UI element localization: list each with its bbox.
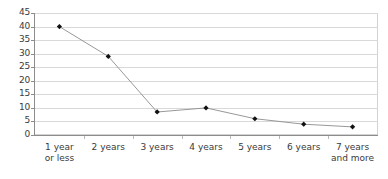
y-tick-label: 30 <box>4 49 30 58</box>
x-tick-mark <box>279 136 280 139</box>
x-tick-label: 6 years <box>279 142 328 153</box>
y-tick-mark <box>31 67 35 68</box>
x-tick-mark <box>182 136 183 139</box>
x-tick-label: 3 years <box>133 142 182 153</box>
y-tick-label: 45 <box>4 8 30 17</box>
y-tick-label: 15 <box>4 89 30 98</box>
y-tick-label: 40 <box>4 22 30 31</box>
x-tick-mark <box>84 136 85 139</box>
x-tick-label: 5 years <box>230 142 279 153</box>
y-tick-mark <box>31 121 35 122</box>
y-tick-label: 25 <box>4 62 30 71</box>
x-tick-label: 1 year or less <box>35 142 84 164</box>
y-tick-label: 35 <box>4 35 30 44</box>
x-tick-mark <box>133 136 134 139</box>
y-tick-label: 0 <box>4 130 30 139</box>
y-axis-ticks: 051015202530354045 <box>0 0 30 179</box>
gridline <box>34 121 378 122</box>
x-tick-label: 4 years <box>182 142 231 153</box>
gridline <box>34 40 378 41</box>
y-tick-mark <box>31 135 35 136</box>
x-tick-label: 7 years and more <box>328 142 377 164</box>
y-tick-label: 10 <box>4 103 30 112</box>
y-tick-mark <box>31 81 35 82</box>
y-axis-line <box>34 13 35 136</box>
x-tick-mark <box>230 136 231 139</box>
gridline <box>34 81 378 82</box>
x-tick-mark <box>328 136 329 139</box>
plot-area <box>34 13 378 135</box>
gridline <box>34 108 378 109</box>
y-tick-mark <box>31 27 35 28</box>
y-tick-mark <box>31 108 35 109</box>
y-tick-label: 5 <box>4 116 30 125</box>
gridline <box>34 54 378 55</box>
line-chart: 051015202530354045 1 year or less2 years… <box>0 0 388 179</box>
x-axis-line <box>34 135 378 136</box>
gridline <box>34 13 378 14</box>
y-tick-label: 20 <box>4 76 30 85</box>
gridline <box>34 67 378 68</box>
y-tick-mark <box>31 54 35 55</box>
y-tick-mark <box>31 94 35 95</box>
gridline <box>34 27 378 28</box>
y-tick-mark <box>31 13 35 14</box>
y-tick-mark <box>31 40 35 41</box>
x-tick-label: 2 years <box>84 142 133 153</box>
gridline <box>34 94 378 95</box>
